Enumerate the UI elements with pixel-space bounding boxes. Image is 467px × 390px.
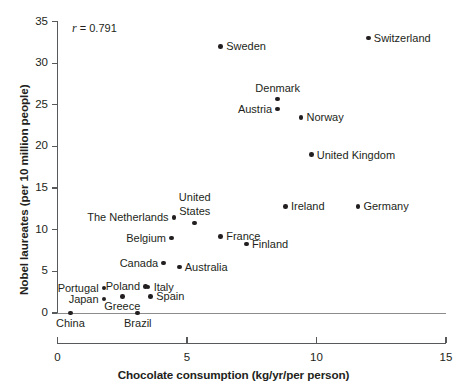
data-point (169, 236, 174, 241)
correlation-value: 0.791 (89, 22, 117, 34)
data-point (172, 215, 177, 220)
y-tick (52, 63, 57, 64)
y-tick (52, 21, 57, 22)
data-point (366, 36, 371, 41)
data-point (244, 242, 249, 247)
data-point-label: UnitedStates (179, 191, 211, 219)
y-tick (52, 229, 57, 230)
x-tick (316, 337, 317, 343)
data-point (120, 294, 125, 299)
x-tick-label: 15 (431, 352, 461, 364)
y-tick (52, 312, 57, 313)
data-point (309, 152, 314, 157)
data-point (146, 285, 151, 290)
data-point (218, 44, 223, 49)
y-tick-label: 30 (22, 57, 48, 69)
data-point (218, 234, 223, 239)
data-point-label: Ireland (291, 201, 325, 212)
data-point (299, 115, 304, 120)
scatter-chart: 05101520253035 051015 Nobel laureates (p… (0, 0, 467, 390)
data-point-label-line: United (179, 191, 211, 205)
data-point-label: Canada (120, 258, 159, 269)
x-tick (445, 337, 446, 343)
data-point-label: Japan (69, 293, 99, 304)
data-point (148, 294, 153, 299)
x-tick-label: 5 (172, 352, 202, 364)
data-point-label: Spain (156, 291, 184, 302)
data-point-label: Sweden (226, 41, 266, 52)
data-point-label: United Kingdom (317, 149, 395, 160)
x-tick-label: 0 (43, 352, 73, 364)
x-tick (186, 337, 187, 343)
data-point-label-line: States (179, 204, 211, 218)
data-point-label: Belgium (126, 233, 166, 244)
y-tick-label: 0 (22, 307, 48, 319)
data-point (275, 107, 280, 112)
data-point (192, 221, 197, 226)
data-point (356, 204, 361, 209)
x-axis-line (57, 343, 446, 344)
data-point-label: Switzerland (374, 33, 431, 44)
x-tick-label: 10 (302, 352, 332, 364)
data-point-label: Finland (252, 238, 288, 249)
x-axis-title: Chocolate consumption (kg/yr/per person) (0, 368, 467, 381)
y-tick (52, 104, 57, 105)
data-point (177, 265, 182, 270)
data-point (275, 97, 280, 102)
correlation-equals: = (77, 22, 90, 34)
correlation-annotation: r = 0.791 (72, 21, 117, 36)
data-point-label: Poland (106, 281, 140, 292)
data-point (68, 311, 73, 316)
data-point-label: Brazil (124, 318, 152, 329)
data-point (135, 311, 140, 316)
data-point (283, 204, 288, 209)
y-tick (52, 271, 57, 272)
data-point-label: China (56, 318, 85, 329)
data-point-label: The Netherlands (87, 212, 168, 223)
y-tick (52, 146, 57, 147)
y-axis-line (57, 21, 58, 314)
data-point-label: Austria (238, 103, 272, 114)
data-point-label: Norway (306, 112, 343, 123)
data-point-label: Australia (185, 262, 228, 273)
y-tick (52, 187, 57, 188)
y-tick-label: 35 (22, 16, 48, 28)
data-point (161, 261, 166, 266)
data-point-label: Portugal (58, 283, 99, 294)
data-point-label: Germany (363, 201, 408, 212)
data-point-label: Denmark (255, 83, 300, 94)
y-axis-title: Nobel laureates (per 10 million people) (17, 85, 30, 295)
x-tick (57, 337, 58, 343)
zero-baseline (57, 313, 446, 314)
